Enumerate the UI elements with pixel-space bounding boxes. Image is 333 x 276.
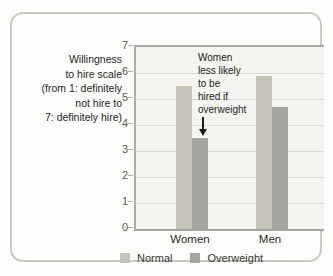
gridline-2 (136, 177, 324, 178)
annotation-line: overweight (198, 103, 268, 116)
y-tick-mark-5 (128, 97, 133, 98)
figure-panel: Willingness to hire scale (from 1: defin… (0, 0, 333, 276)
y-tick-mark-0 (128, 227, 133, 228)
y-tick-mark-3 (128, 149, 133, 150)
legend-label-normal: Normal (137, 252, 172, 264)
legend-item-overweight: Overweight (190, 252, 263, 264)
y-tick-mark-6 (128, 71, 133, 72)
legend-item-normal: Normal (120, 252, 172, 264)
bar-men-overweight (272, 107, 288, 229)
y-axis-title: Willingness to hire scale (from 1: defin… (24, 52, 122, 125)
bar-women-normal (176, 86, 192, 229)
y-tick-mark-1 (128, 201, 133, 202)
chart-card: Willingness to hire scale (from 1: defin… (10, 12, 322, 262)
y-tick-mark-7 (128, 45, 133, 46)
legend-swatch-normal (120, 253, 130, 263)
annotation-line: Women (198, 51, 268, 64)
legend: Normal Overweight (120, 252, 281, 264)
y-tick-mark-2 (128, 175, 133, 176)
gridline-3 (136, 151, 324, 152)
y-tick-label-7: 7 (104, 39, 128, 51)
legend-label-overweight: Overweight (207, 252, 263, 264)
annotation-line: less likely (198, 64, 268, 77)
y-tick-label-6: 6 (104, 65, 128, 77)
y-tick-label-3: 3 (104, 143, 128, 155)
annotation-arrow-head-icon (199, 129, 207, 136)
y-tick-label-0: 0 (104, 221, 128, 233)
x-category-label-women: Women (150, 233, 230, 245)
y-tick-mark-4 (128, 123, 133, 124)
y-tick-label-4: 4 (104, 117, 128, 129)
x-category-label-men: Men (230, 233, 310, 245)
y-tick-label-1: 1 (104, 195, 128, 207)
gridline-1 (136, 203, 324, 204)
y-tick-label-5: 5 (104, 91, 128, 103)
annotation-line: hired if (198, 90, 268, 103)
bar-women-overweight (192, 138, 208, 229)
legend-swatch-overweight (190, 253, 200, 263)
y-tick-label-2: 2 (104, 169, 128, 181)
annotation-line: to be (198, 77, 268, 90)
gridline-4 (136, 125, 324, 126)
annotation-text: Women less likely to be hired if overwei… (198, 51, 268, 116)
